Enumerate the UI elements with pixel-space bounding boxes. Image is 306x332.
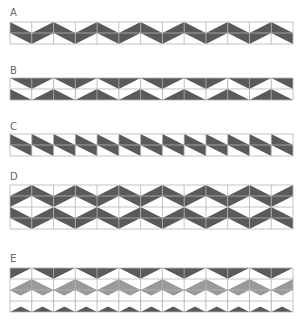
panel-c-diagonal-bands xyxy=(10,134,293,156)
panel-a-zigzag xyxy=(10,22,293,44)
panel-e-diamond-inverse xyxy=(10,268,293,312)
pattern-diagram xyxy=(0,0,306,332)
panel-d-diamond-zigzag xyxy=(10,185,293,229)
panel-b-zigzag-inverse xyxy=(10,78,293,100)
